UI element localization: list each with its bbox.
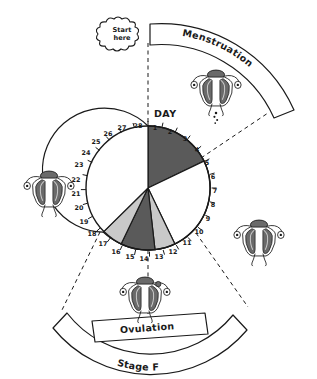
start-here-callout[interactable]: Start here [96, 17, 138, 51]
day-label: 19 [80, 218, 89, 226]
day-label: 17 [99, 240, 108, 248]
day-label: 13 [155, 253, 164, 261]
day-label: 7 [213, 187, 217, 195]
day-label: 24 [82, 149, 91, 157]
menstrual-cycle-diagram: Menstruation Stage F Ovulation Start her… [0, 0, 317, 379]
day-label: 4 [195, 146, 200, 154]
day-label: 2 [168, 128, 172, 136]
day-label: 23 [75, 161, 84, 169]
day-label: 20 [75, 204, 84, 212]
start-here-line1: Start [113, 26, 132, 34]
day-label: 28 [134, 122, 143, 130]
dashed-line-day5 [201, 113, 268, 158]
dashed-line-day12 [196, 233, 248, 307]
start-here-line2: here [114, 34, 131, 42]
day-label: 3 [183, 135, 187, 143]
day-label: 21 [72, 190, 81, 198]
day-label: 8 [211, 201, 216, 209]
uterus-menstruation [191, 70, 241, 124]
day-label: 14 [140, 255, 149, 263]
day-label: 18 [88, 230, 97, 238]
day-label: 1 [153, 124, 157, 132]
day-label: 25 [92, 138, 101, 146]
day-label: 27 [118, 124, 127, 132]
uterus-post-ovulation [234, 220, 284, 266]
day-label: 10 [195, 228, 204, 236]
day-label: 26 [104, 130, 113, 138]
day-label: 11 [183, 239, 192, 247]
day-axis-label: DAY [154, 108, 176, 119]
day-label: 9 [206, 215, 211, 223]
band-ovulation: Ovulation [92, 313, 208, 342]
day-label: 12 [169, 248, 178, 256]
dashed-line-day17 [62, 232, 100, 310]
day-label: 6 [211, 173, 216, 181]
day-label: 15 [126, 253, 135, 261]
day-label: 5 [205, 159, 209, 167]
day-label: 16 [112, 248, 121, 256]
